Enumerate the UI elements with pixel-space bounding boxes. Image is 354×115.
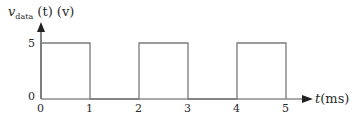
y-tick-0: 0 [28, 90, 35, 103]
y-axis-label-subscript: data [15, 12, 33, 21]
x-axis-label-unit: (ms) [320, 91, 349, 106]
x-tick-4: 4 [233, 102, 240, 115]
y-axis-label: vdata (t) (v) [8, 4, 74, 21]
square-wave-chart: vdata (t) (v) t(ms) 5 0 0 1 2 3 4 5 [0, 0, 354, 115]
x-axis-label: t(ms) [315, 91, 349, 106]
x-axis-arrow-icon [302, 95, 313, 103]
x-tick-0: 0 [37, 102, 44, 115]
y-axis-label-rest: (t) (v) [33, 4, 74, 19]
x-tick-3: 3 [184, 102, 191, 115]
x-tick-1: 1 [86, 102, 93, 115]
y-axis-arrow-icon [37, 22, 45, 32]
x-tick-2: 2 [135, 102, 142, 115]
y-tick-5: 5 [28, 37, 35, 50]
square-wave-series [41, 43, 286, 99]
x-tick-5: 5 [282, 102, 289, 115]
